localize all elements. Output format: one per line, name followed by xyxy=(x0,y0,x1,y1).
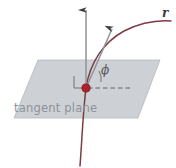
angle-label-phi: ϕ xyxy=(101,64,109,76)
point-of-tangency xyxy=(82,84,90,92)
figure-canvas xyxy=(0,0,176,168)
tangent-plane-label: tangent plane xyxy=(14,103,97,115)
tangent-plane-figure: tangent plane r ϕ xyxy=(0,0,176,168)
curve-label: r xyxy=(162,7,168,19)
